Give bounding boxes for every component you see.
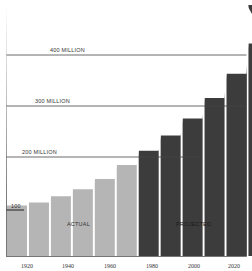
population-chart: 400 MILLION 300 MILLION 200 MILLION 100 …	[0, 0, 252, 271]
actual-label: ACTUAL	[67, 221, 90, 227]
gridline-400-label: 400 MILLION	[50, 47, 85, 53]
projected-label: PROJECTED	[176, 221, 211, 227]
x-tick-1980: 1980	[146, 263, 158, 269]
gridline-300-label: 300 MILLION	[35, 98, 70, 104]
x-tick-1960: 1960	[104, 263, 116, 269]
x-tick-1940: 1940	[62, 263, 74, 269]
x-tick-2020: 2020	[228, 263, 240, 269]
marker-100-label: 100	[11, 203, 21, 209]
x-tick-1920: 1920	[21, 263, 33, 269]
x-tick-2000: 2000	[188, 263, 200, 269]
gridline-200-label: 200 MILLION	[22, 149, 57, 155]
